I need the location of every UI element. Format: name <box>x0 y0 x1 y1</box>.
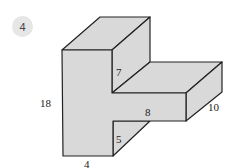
label-8: 8 <box>145 106 151 118</box>
prism-figure: 7 8 10 18 5 4 <box>0 0 238 168</box>
label-7: 7 <box>116 66 122 78</box>
label-4: 4 <box>84 158 90 168</box>
label-18: 18 <box>40 97 52 109</box>
label-5: 5 <box>116 133 122 145</box>
label-10: 10 <box>208 101 220 113</box>
